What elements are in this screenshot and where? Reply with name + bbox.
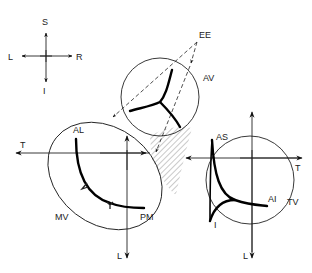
- mitral-valve-label: MV: [55, 212, 69, 222]
- hatched-fibrous-region: [140, 120, 200, 200]
- mitral-t-label: T: [20, 140, 26, 150]
- mitral-pm-label: PM: [140, 212, 154, 222]
- compass-inferior-label: I: [43, 86, 46, 96]
- aortic-cusp-line-2: [160, 102, 180, 127]
- compass-right-label: R: [76, 52, 83, 62]
- compass-left-label: L: [8, 52, 13, 62]
- tricuspid-valve-label: TV: [287, 197, 299, 207]
- mitral-coaptation-line: [76, 139, 144, 208]
- mitral-valve-outline: [27, 100, 184, 252]
- tricuspid-l-label: L: [243, 251, 248, 261]
- aortic-cusp-line-1: [130, 70, 172, 111]
- compass-superior-label: S: [42, 17, 48, 27]
- mitral-al-label: AL: [73, 125, 84, 135]
- tricuspid-septal-line: [210, 140, 212, 221]
- tricuspid-i-label: I: [214, 220, 217, 230]
- tricuspid-lower-line: [210, 200, 235, 221]
- mitral-l-label: L: [117, 251, 122, 261]
- tricuspid-ai-label: AI: [268, 194, 277, 204]
- ee-dashed-arrow-right: [191, 42, 197, 63]
- aortic-valve-outline: [121, 58, 199, 136]
- ee-label: EE: [199, 30, 211, 40]
- orientation-compass: S I L R: [8, 17, 83, 96]
- tricuspid-t-label: T: [295, 163, 301, 173]
- aortic-valve: AV: [121, 58, 214, 136]
- aortic-valve-label: AV: [203, 73, 214, 83]
- tricuspid-as-label: AS: [216, 132, 228, 142]
- tricuspid-upper-line: [212, 140, 267, 206]
- mitral-valve: AL PM MV T L: [16, 100, 183, 261]
- tricuspid-valve: AS AI I TV T L: [186, 112, 302, 261]
- heart-valve-diagram: S I L R AV EE AL PM MV T L: [0, 0, 312, 273]
